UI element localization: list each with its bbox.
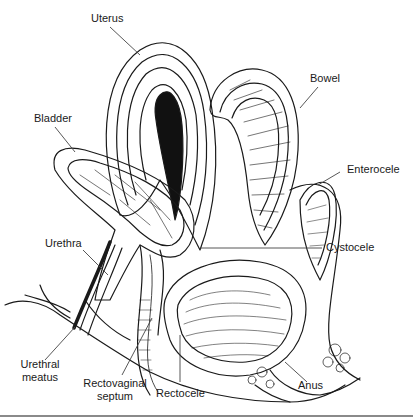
label-bowel: Bowel <box>310 72 340 85</box>
bowel-shape <box>210 69 298 245</box>
anatomy-figure: Uterus Bowel Bladder Enterocele Urethra … <box>0 0 413 420</box>
bottom-divider <box>0 415 413 417</box>
label-uterus: Uterus <box>91 12 123 25</box>
label-urethra: Urethra <box>45 237 82 250</box>
leader-bladder <box>55 127 75 152</box>
label-cystocele: Cystocele <box>326 241 374 254</box>
leader-bowel <box>300 87 318 108</box>
label-urethral-meatus: Urethral meatus <box>14 358 66 384</box>
label-bladder: Bladder <box>34 112 72 125</box>
label-rectovaginal-septum: Rectovaginal septum <box>80 377 150 403</box>
leader-enterocele <box>318 172 340 185</box>
label-rectocele: Rectocele <box>156 387 205 400</box>
label-anus: Anus <box>298 379 323 392</box>
leader-urethral-meatus <box>45 327 75 360</box>
leader-uterus <box>110 27 140 55</box>
pelvic-anatomy-illustration <box>0 0 413 420</box>
rectocele-shape <box>164 260 306 376</box>
label-enterocele: Enterocele <box>347 163 400 176</box>
